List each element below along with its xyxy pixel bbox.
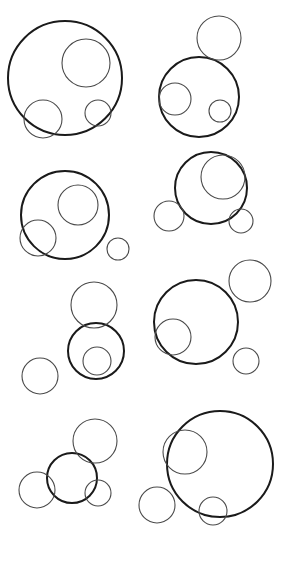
canvas-background [0,0,284,564]
circle-groups-figure [0,0,284,564]
figure-canvas [0,0,284,564]
